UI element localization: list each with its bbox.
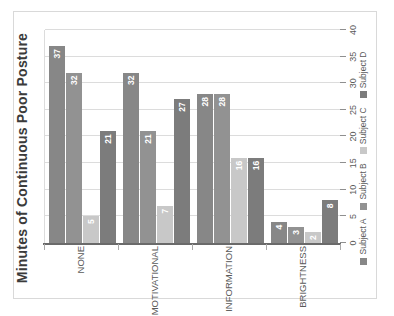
bar-value-label: 21 <box>140 131 156 143</box>
posture-bar-chart: Minutes of Continuous Poor Posture 37325… <box>0 0 394 316</box>
legend-label: Subject A <box>358 219 368 255</box>
bar-subject-d-motivational: 27 <box>174 99 190 243</box>
bar-value-label: 5 <box>83 216 99 224</box>
gridline <box>45 56 341 57</box>
bar-subject-d-information: 16 <box>248 158 264 243</box>
bar-subject-a-none: 37 <box>49 46 65 243</box>
bar-subject-c-brightness: 2 <box>305 232 321 243</box>
bar-subject-b-brightness: 3 <box>288 227 304 243</box>
legend-item-subject-a: Subject A <box>358 219 368 265</box>
bar-value-label: 8 <box>322 200 338 208</box>
category-label: NONE <box>76 246 86 316</box>
bar-subject-b-motivational: 21 <box>140 131 156 243</box>
value-axis-tick-mark <box>340 82 346 83</box>
value-axis-tick-label: 30 <box>348 72 358 94</box>
legend: Subject ASubject BSubject CSubject D <box>358 0 368 316</box>
bar-value-label: 32 <box>123 73 139 85</box>
bar-subject-a-brightness: 4 <box>271 222 287 243</box>
value-axis-tick-label: 35 <box>348 46 358 68</box>
category-axis-tick-mark <box>340 244 341 250</box>
bar-value-label: 3 <box>288 227 304 235</box>
bar-subject-d-brightness: 8 <box>322 200 338 243</box>
plot-area: 37325213221727282816164328 <box>44 30 341 243</box>
value-axis-tick-label: 0 <box>348 232 358 254</box>
value-axis-tick-mark <box>340 215 346 216</box>
bar-value-label: 28 <box>197 94 213 106</box>
legend-label: Subject C <box>358 107 368 144</box>
gridline <box>45 82 341 83</box>
bar-value-label: 28 <box>214 94 230 106</box>
bar-subject-a-motivational: 32 <box>123 73 139 243</box>
value-axis-tick-label: 10 <box>348 179 358 201</box>
legend-swatch-icon <box>360 91 367 98</box>
value-axis-tick-mark <box>340 189 346 190</box>
gridline <box>45 109 341 110</box>
value-axis-tick-mark <box>340 56 346 57</box>
legend-item-subject-d: Subject D <box>358 51 368 98</box>
category-axis-tick-mark <box>266 244 267 250</box>
category-axis-tick-mark <box>118 244 119 250</box>
bar-subject-c-none: 5 <box>83 216 99 243</box>
legend-item-subject-b: Subject B <box>358 163 368 209</box>
bar-value-label: 37 <box>49 46 65 58</box>
category-axis-tick-mark <box>44 244 45 250</box>
value-axis-tick-mark <box>340 29 346 30</box>
value-axis-tick-label: 20 <box>348 126 358 148</box>
bar-subject-c-motivational: 7 <box>157 206 173 243</box>
bar-value-label: 7 <box>157 206 173 214</box>
value-axis-tick-label: 15 <box>348 152 358 174</box>
bar-value-label: 27 <box>174 99 190 111</box>
legend-swatch-icon <box>360 147 367 154</box>
bar-value-label: 2 <box>305 232 321 240</box>
bar-subject-d-none: 21 <box>100 131 116 243</box>
legend-swatch-icon <box>360 203 367 210</box>
category-label: MOTIVATIONAL <box>150 246 160 316</box>
legend-swatch-icon <box>360 258 367 265</box>
rotated-chart-canvas: Minutes of Continuous Poor Posture 37325… <box>0 0 394 316</box>
value-axis-tick-label: 25 <box>348 99 358 121</box>
bar-value-label: 32 <box>66 73 82 85</box>
value-axis-tick-label: 5 <box>348 205 358 227</box>
bar-value-label: 4 <box>271 222 287 230</box>
legend-label: Subject D <box>358 51 368 88</box>
value-axis-tick-mark <box>340 242 346 243</box>
category-label: INFORMATION <box>224 246 234 316</box>
bar-subject-b-none: 32 <box>66 73 82 243</box>
value-axis-tick-mark <box>340 136 346 137</box>
bar-value-label: 16 <box>248 158 264 170</box>
gridline <box>45 136 341 137</box>
bar-value-label: 21 <box>100 131 116 143</box>
category-axis-tick-mark <box>192 244 193 250</box>
bar-subject-c-information: 16 <box>231 158 247 243</box>
legend-label: Subject B <box>358 163 368 199</box>
value-axis-tick-mark <box>340 162 346 163</box>
bar-value-label: 16 <box>231 158 247 170</box>
legend-item-subject-c: Subject C <box>358 107 368 154</box>
gridline <box>45 162 341 163</box>
category-label: BRIGHTNESS <box>298 246 308 316</box>
bar-subject-b-information: 28 <box>214 94 230 243</box>
chart-title: Minutes of Continuous Poor Posture <box>14 0 30 316</box>
value-axis-tick-mark <box>340 109 346 110</box>
bar-subject-a-information: 28 <box>197 94 213 243</box>
gridline <box>45 29 341 30</box>
gridline <box>45 189 341 190</box>
value-axis-tick-label: 40 <box>348 19 358 41</box>
